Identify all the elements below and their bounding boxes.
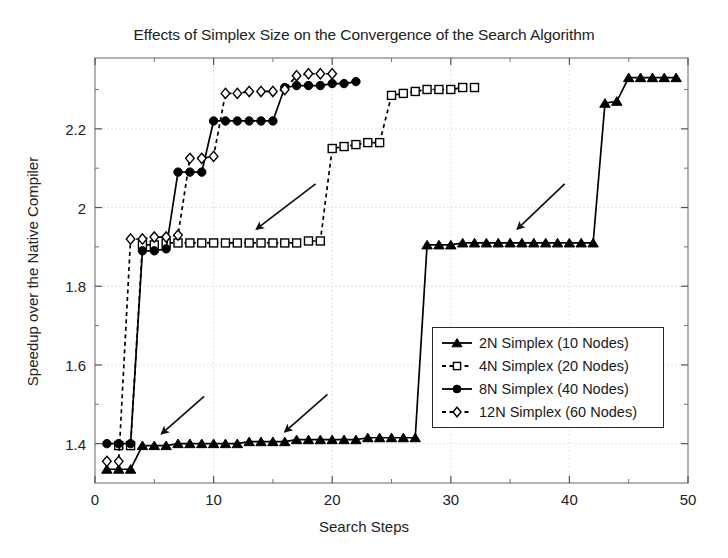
series-marker-2 bbox=[233, 117, 241, 125]
y-tick-label: 2.2 bbox=[38, 120, 86, 137]
legend-item-label: 2N Simplex (10 Nodes) bbox=[479, 335, 629, 351]
series-marker-1 bbox=[269, 239, 277, 247]
series-marker-1 bbox=[399, 89, 407, 97]
x-tick-label: 40 bbox=[561, 491, 578, 508]
series-marker-1 bbox=[186, 239, 194, 247]
series-marker-3 bbox=[114, 456, 123, 466]
series-marker-2 bbox=[174, 168, 182, 176]
series-marker-1 bbox=[376, 139, 384, 147]
legend-swatch-square-open bbox=[439, 357, 477, 375]
series-marker-1 bbox=[233, 239, 241, 247]
series-marker-3 bbox=[209, 151, 218, 161]
series-marker-1 bbox=[435, 85, 443, 93]
series-line-2 bbox=[107, 82, 356, 444]
series-marker-2 bbox=[138, 247, 146, 255]
legend[interactable]: 2N Simplex (10 Nodes)4N Simplex (20 Node… bbox=[432, 327, 664, 428]
series-marker-1 bbox=[257, 239, 265, 247]
y-tick-label: 2 bbox=[38, 199, 86, 216]
series-marker-2 bbox=[221, 117, 229, 125]
series-marker-1 bbox=[281, 239, 289, 247]
plot-area bbox=[0, 0, 728, 558]
series-marker-2 bbox=[150, 247, 158, 255]
legend-swatch-diamond-open bbox=[439, 403, 477, 421]
series-marker-2 bbox=[292, 81, 300, 89]
series-marker-2 bbox=[103, 439, 111, 447]
series-marker-3 bbox=[304, 69, 313, 79]
series-marker-1 bbox=[293, 239, 301, 247]
legend-item[interactable]: 8N Simplex (40 Nodes) bbox=[433, 377, 663, 400]
y-tick-label: 1.8 bbox=[38, 278, 86, 295]
series-marker-2 bbox=[304, 81, 312, 89]
x-tick-label: 50 bbox=[680, 491, 697, 508]
series-marker-1 bbox=[411, 87, 419, 95]
arrow-2n-low-right bbox=[285, 394, 328, 431]
x-tick-label: 10 bbox=[205, 491, 222, 508]
series-marker-1 bbox=[352, 141, 360, 149]
series-marker-3 bbox=[328, 69, 337, 79]
series-marker-3 bbox=[245, 86, 254, 96]
series-marker-3 bbox=[221, 88, 230, 98]
y-tick-label: 1.4 bbox=[38, 435, 86, 452]
y-tick-label: 1.6 bbox=[38, 356, 86, 373]
series-marker-2 bbox=[352, 77, 360, 85]
series-marker-3 bbox=[103, 456, 112, 466]
series-line-1 bbox=[119, 88, 475, 446]
x-tick-label: 20 bbox=[324, 491, 341, 508]
legend-swatch-circle-filled bbox=[439, 380, 477, 398]
series-marker-3 bbox=[316, 69, 325, 79]
arrow-2n-right-plateau bbox=[517, 184, 564, 229]
series-marker-2 bbox=[340, 79, 348, 87]
series-marker-2 bbox=[269, 117, 277, 125]
series-marker-3 bbox=[257, 86, 266, 96]
series-marker-1 bbox=[340, 143, 348, 151]
legend-item[interactable]: 4N Simplex (20 Nodes) bbox=[433, 354, 663, 377]
series-marker-3 bbox=[186, 153, 195, 163]
series-marker-2 bbox=[126, 439, 134, 447]
series-marker-2 bbox=[328, 79, 336, 87]
series-marker-1 bbox=[328, 145, 336, 153]
series-marker-3 bbox=[269, 86, 278, 96]
series-marker-3 bbox=[233, 88, 242, 98]
series-marker-2 bbox=[115, 439, 123, 447]
series-marker-1 bbox=[198, 239, 206, 247]
series-marker-1 bbox=[388, 91, 396, 99]
series-marker-0 bbox=[612, 97, 622, 106]
legend-item[interactable]: 2N Simplex (10 Nodes) bbox=[433, 331, 663, 354]
series-marker-2 bbox=[198, 168, 206, 176]
series-marker-1 bbox=[471, 84, 479, 92]
legend-item[interactable]: 12N Simplex (60 Nodes) bbox=[433, 400, 663, 423]
x-tick-label: 30 bbox=[442, 491, 459, 508]
series-marker-1 bbox=[364, 139, 372, 147]
series-marker-2 bbox=[209, 117, 217, 125]
series-marker-1 bbox=[221, 239, 229, 247]
series-marker-2 bbox=[245, 117, 253, 125]
arrow-4n-plateau bbox=[256, 184, 315, 229]
series-marker-1 bbox=[316, 237, 324, 245]
series-marker-2 bbox=[316, 81, 324, 89]
legend-item-label: 12N Simplex (60 Nodes) bbox=[479, 404, 637, 420]
series-marker-1 bbox=[210, 239, 218, 247]
x-tick-label: 0 bbox=[91, 491, 99, 508]
series-marker-1 bbox=[304, 237, 312, 245]
series-marker-1 bbox=[447, 85, 455, 93]
figure-canvas: Effects of Simplex Size on the Convergen… bbox=[0, 0, 728, 558]
series-marker-1 bbox=[245, 239, 253, 247]
series-marker-2 bbox=[162, 245, 170, 253]
legend-swatch-triangle-filled bbox=[439, 334, 477, 352]
legend-item-label: 4N Simplex (20 Nodes) bbox=[479, 358, 629, 374]
series-marker-2 bbox=[257, 117, 265, 125]
series-marker-3 bbox=[126, 234, 135, 244]
series-marker-1 bbox=[459, 84, 467, 92]
legend-item-label: 8N Simplex (40 Nodes) bbox=[479, 381, 629, 397]
series-marker-1 bbox=[423, 85, 431, 93]
arrow-2n-low-left bbox=[161, 396, 204, 433]
